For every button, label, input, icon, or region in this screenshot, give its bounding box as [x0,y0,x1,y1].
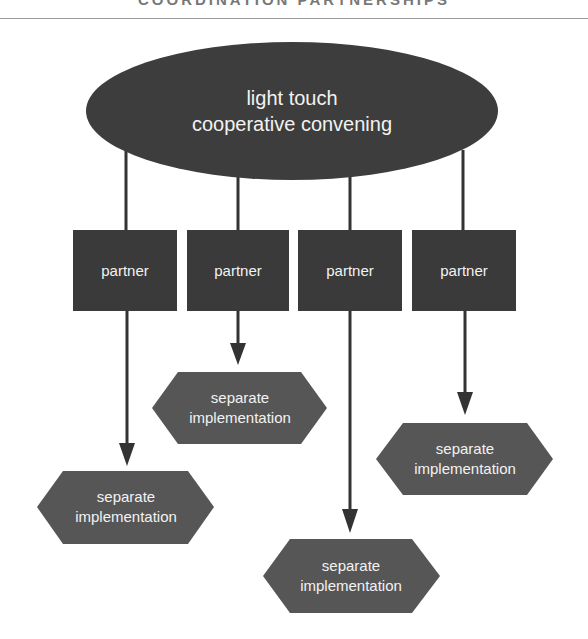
hub-label-line1: light touch [246,87,337,109]
partner-node: partner [298,230,402,311]
arrow-down-icon [342,311,358,533]
outcome-label-line1: separate [97,488,155,505]
partner-label: partner [101,262,149,279]
outcome-node: separate implementation [376,423,553,495]
partner-node: partner [73,230,177,311]
outcome-label-line2: implementation [414,460,516,477]
partner-node: partner [412,230,516,311]
arrow-down-icon [230,311,246,365]
coordination-diagram: light touch cooperative convening partne… [0,0,588,639]
partner-label: partner [440,262,488,279]
partner-label: partner [326,262,374,279]
hub-node: light touch cooperative convening [86,42,498,180]
outcome-node: separate implementation [37,471,214,544]
outcome-label-line2: implementation [300,577,402,594]
outcome-node: separate implementation [263,539,440,613]
outcome-label-line2: implementation [189,409,291,426]
hub-label-line2: cooperative convening [192,113,392,135]
arrow-down-icon [119,311,135,466]
partner-node: partner [187,230,289,311]
partner-label: partner [214,262,262,279]
outcome-node: separate implementation [152,372,327,444]
arrow-down-icon [457,311,473,415]
outcome-label-line1: separate [436,440,494,457]
outcome-label-line2: implementation [75,508,177,525]
outcome-label-line1: separate [322,557,380,574]
outcome-label-line1: separate [211,389,269,406]
